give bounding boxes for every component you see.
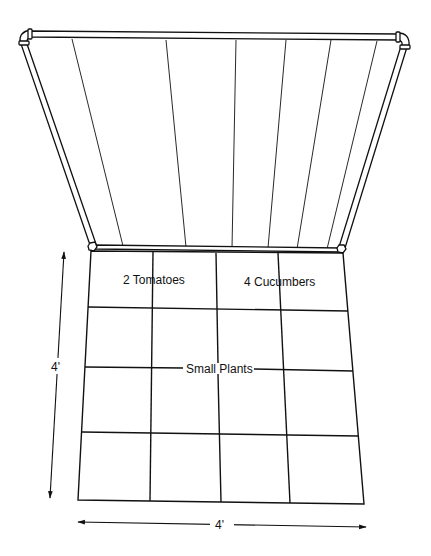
- grid-col-line-2b: [218, 374, 221, 502]
- label-height: 4': [51, 360, 60, 374]
- height-dimension-arrow: [50, 252, 64, 498]
- trellis-left-pipe: [21, 44, 96, 245]
- label-tomatoes: 2 Tomatoes: [123, 273, 185, 287]
- grid-row-line-2b: [254, 369, 353, 371]
- elbow-joint-top-right: [396, 32, 410, 49]
- joint-bottom-right: [337, 245, 346, 253]
- grid-col-line-2a: [216, 253, 218, 363]
- grid-col-line-3: [278, 253, 290, 503]
- elbow-joint-top-left: [19, 29, 32, 45]
- grid-col-line-1: [150, 252, 153, 501]
- label-width: 4': [215, 518, 224, 532]
- joint-bottom-left: [88, 242, 97, 251]
- label-small-plants: Small Plants: [186, 362, 253, 376]
- trellis-top-pipe: [30, 31, 398, 40]
- garden-bed-grid: [78, 251, 364, 504]
- label-cucumbers: 4 Cucumbers: [244, 275, 315, 289]
- bed-outline: [78, 251, 364, 504]
- grid-row-line-2a: [85, 367, 183, 368]
- garden-diagram: 2 Tomatoes 4 Cucumbers Small Plants 4' 4…: [0, 0, 431, 556]
- trellis-right-pipe: [339, 46, 407, 248]
- grid-row-line-1: [88, 307, 348, 311]
- trellis-slats: [72, 39, 377, 249]
